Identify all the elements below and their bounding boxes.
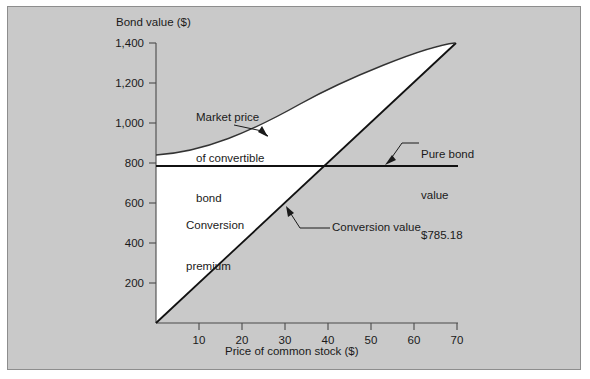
pure-bond-value-annotation-amount: $785.18 [421,229,474,243]
pure-bond-value-annotation-line2: value [421,189,474,203]
conversion-premium-annotation-line1: Conversion [186,219,244,233]
figure-container: Bond value ($) Price of common stock ($)… [0,0,590,379]
x-tick-label-50: 50 [356,334,386,346]
pure-bond-value-annotation: Pure bond value $785.18 [421,121,474,270]
x-tick-label-30: 30 [270,334,300,346]
y-axis-title: Bond value ($) [116,16,191,30]
y-tick-label-200: 200 [96,277,144,289]
x-axis-title: Price of common stock ($) [225,345,359,359]
pure-bond-value-arrow [385,143,419,165]
y-tick-label-1000: 1,000 [96,117,144,129]
conversion-premium-annotation-line2: premium [186,260,244,274]
y-tick-label-1200: 1,200 [96,77,144,89]
x-tick-label-60: 60 [399,334,429,346]
x-axis-ticks [199,323,457,330]
y-axis-ticks [149,43,156,283]
x-tick-label-20: 20 [227,334,257,346]
y-tick-label-400: 400 [96,237,144,249]
market-price-annotation-line1: Market price [196,111,264,125]
x-tick-label-10: 10 [184,334,214,346]
y-tick-label-1400: 1,400 [96,37,144,49]
conversion-value-annotation: Conversion value [332,221,421,235]
market-price-annotation-line2: of convertible [196,152,264,166]
x-tick-label-40: 40 [313,334,343,346]
pure-bond-value-annotation-line1: Pure bond [421,148,474,162]
conversion-premium-annotation: Conversion premium [186,192,244,300]
chart-canvas [0,0,590,379]
conversion-value-arrow [286,206,330,228]
y-tick-label-800: 800 [96,157,144,169]
x-tick-label-70: 70 [442,334,472,346]
y-tick-label-600: 600 [96,197,144,209]
